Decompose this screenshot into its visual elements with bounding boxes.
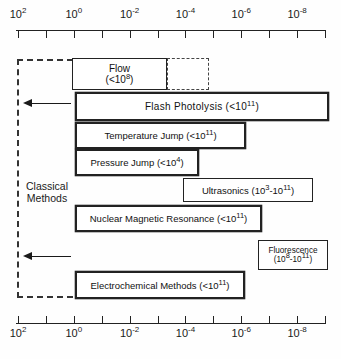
classical-methods-label-line2: Methods (20, 192, 74, 204)
axis-tick (213, 316, 214, 323)
method-bar-temperature-jump: Temperature Jump (<1011) (76, 123, 245, 148)
arrow-shaft (29, 103, 71, 104)
method-bar-nuclear-magnetic-resonance: Nuclear Magnetic Resonance (<1011) (76, 206, 261, 231)
classical-methods-label: Classical Methods (20, 180, 74, 204)
axis-tick (325, 316, 326, 323)
axis-tick (46, 31, 47, 38)
axis-tick (325, 31, 326, 38)
axis-tick (158, 31, 159, 38)
classical-methods-bracket (17, 59, 73, 298)
method-bar-flow-dashed-extension (167, 58, 209, 90)
left-arrow-lower (23, 252, 71, 261)
arrow-shaft (29, 256, 71, 257)
axis-tick (241, 316, 242, 323)
axis-tick (185, 31, 186, 38)
axis-tick (241, 31, 242, 38)
axis-tick (18, 31, 19, 38)
method-label-flow-line2: (<108) (106, 74, 134, 85)
method-bar-ultrasonics: Ultrasonics (103-1011) (183, 178, 313, 202)
axis-tick (158, 316, 159, 323)
axis-tick-label: 100 (65, 327, 82, 339)
axis-tick (74, 31, 75, 38)
axis-tick (297, 316, 298, 323)
axis-tick (297, 31, 298, 38)
axis-tick-label: 10-8 (287, 8, 306, 20)
method-bar-electrochemical-methods: Electrochemical Methods (<1011) (76, 272, 244, 298)
axis-tick-label: 10-8 (287, 327, 306, 339)
method-label-ultrasonics: Ultrasonics (103-1011) (202, 185, 294, 196)
method-label-temperature-jump: Temperature Jump (<1011) (104, 130, 216, 141)
method-label-nuclear-magnetic-resonance: Nuclear Magnetic Resonance (<1011) (90, 213, 248, 224)
axis-tick (130, 316, 131, 323)
method-label-fluorescence-line1: Fluorescence (268, 246, 317, 256)
method-bar-pressure-jump: Pressure Jump (<104) (76, 150, 198, 175)
method-label-flash-photolysis: Flash Photolysis (<1011) (145, 101, 259, 112)
axis-tick (102, 31, 103, 38)
method-label-fluorescence-line2: (108-1011) (274, 255, 312, 265)
method-bar-flow: Flow (<108) (72, 58, 167, 90)
axis-tick-label: 100 (65, 8, 82, 20)
axis-tick-label: 102 (10, 8, 27, 20)
axis-tick (185, 316, 186, 323)
axis-tick-label: 10-2 (120, 8, 139, 20)
axis-tick (18, 316, 19, 323)
axis-tick-label: 10-2 (120, 327, 139, 339)
fast-reaction-methods-diagram: 10210010-210-410-610-8 Classical Methods… (0, 0, 341, 359)
axis-tick (269, 31, 270, 38)
axis-tick-label: 10-6 (232, 8, 251, 20)
bottom-axis-line (16, 323, 326, 324)
method-bar-fluorescence: Fluorescence (108-1011) (258, 240, 328, 270)
method-bar-flash-photolysis: Flash Photolysis (<1011) (76, 93, 328, 120)
axis-tick (74, 316, 75, 323)
axis-tick (130, 31, 131, 38)
method-label-electrochemical-methods: Electrochemical Methods (<1011) (90, 280, 229, 291)
axis-tick-label: 10-4 (176, 8, 195, 20)
axis-tick (269, 316, 270, 323)
axis-tick (213, 31, 214, 38)
axis-tick-label: 10-4 (176, 327, 195, 339)
classical-methods-label-line1: Classical (20, 180, 74, 192)
method-label-pressure-jump: Pressure Jump (<104) (90, 157, 183, 168)
left-arrow-upper (23, 99, 71, 108)
axis-tick (46, 316, 47, 323)
axis-tick-label: 102 (10, 327, 27, 339)
top-axis-line (16, 30, 326, 31)
axis-tick (102, 316, 103, 323)
axis-tick-label: 10-6 (232, 327, 251, 339)
